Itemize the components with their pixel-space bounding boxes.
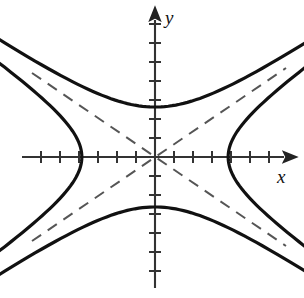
y-axis-label: y	[163, 7, 174, 28]
hyperbola-branch-bottom	[0, 207, 304, 288]
axes-group	[22, 20, 284, 288]
asymptote-negative-slope	[32, 73, 286, 246]
x-axis-label: x	[276, 166, 286, 187]
hyperbola-figure: y x	[0, 0, 304, 298]
asymptote-positive-slope	[32, 68, 286, 241]
hyperbola-branch-top	[0, 26, 304, 107]
hyperbola-svg: y x	[0, 0, 304, 298]
